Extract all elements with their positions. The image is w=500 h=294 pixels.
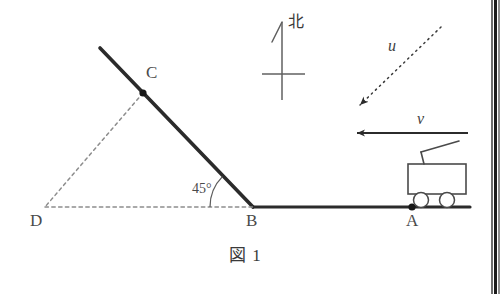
point-label-c: C xyxy=(146,64,157,81)
compass-north-label: 北 xyxy=(288,14,304,30)
vector-label-u: u xyxy=(388,38,396,54)
vector-label-v: v xyxy=(417,111,424,127)
figure-caption: 図 1 xyxy=(229,247,262,264)
angle-arc-45 xyxy=(210,177,222,207)
track-diagonal-segment xyxy=(100,48,253,207)
angle-label-45: 45° xyxy=(192,182,212,196)
point-label-a: A xyxy=(406,212,418,229)
figure-page: C B D A 45° 北 u v 図 1 xyxy=(0,0,500,294)
point-label-d: D xyxy=(30,212,42,229)
compass-north-icon xyxy=(262,22,305,100)
tram-cart-icon xyxy=(408,141,466,208)
point-marker-c xyxy=(139,89,146,96)
page-edge-band xyxy=(490,0,500,294)
vector-u-arrow xyxy=(360,27,441,105)
page-edge-line-outer xyxy=(491,0,493,294)
page-edge-line-middle xyxy=(494,0,497,294)
point-label-b: B xyxy=(246,212,257,229)
construction-line-c-d xyxy=(45,93,143,207)
